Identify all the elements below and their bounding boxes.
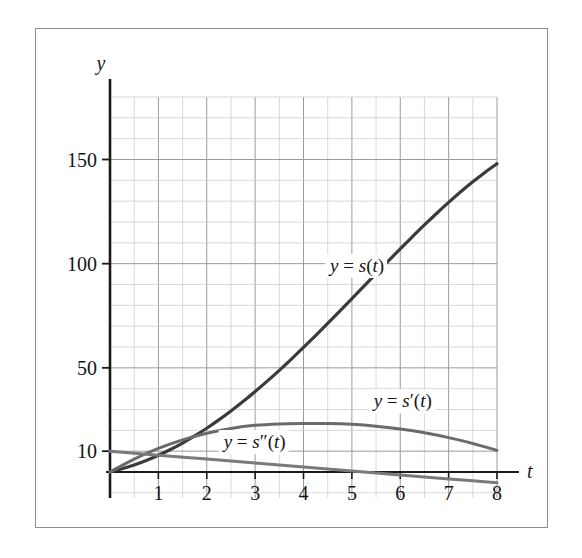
x-tick-label: 2 <box>202 482 212 504</box>
x-tick-label: 4 <box>299 482 309 504</box>
y-tick-label: 50 <box>77 357 97 379</box>
graph-canvas: 105010015012345678yty = s(t)y = s′(t)y =… <box>0 0 582 558</box>
x-tick-label: 1 <box>153 482 163 504</box>
y-tick-label: 100 <box>67 253 97 275</box>
grid-lines <box>110 97 497 498</box>
x-tick-label: 6 <box>395 482 405 504</box>
x-tick-label: 5 <box>347 482 357 504</box>
y-tick-label: 10 <box>77 440 97 462</box>
curve-label-0: y = s(t) <box>328 255 384 277</box>
y-tick-label: 150 <box>67 149 97 171</box>
y-axis-label: y <box>95 52 106 75</box>
curve-label-2: y = s″(t) <box>222 431 286 453</box>
curve-label-1: y = s′(t) <box>372 390 432 412</box>
x-axis-label: t <box>527 460 533 482</box>
axes <box>106 79 519 498</box>
x-tick-label: 3 <box>250 482 260 504</box>
x-tick-label: 7 <box>444 482 454 504</box>
y-axis-ticks: 1050100150 <box>67 149 110 463</box>
figure-container: 105010015012345678yty = s(t)y = s′(t)y =… <box>0 0 582 558</box>
x-tick-label: 8 <box>492 482 502 504</box>
